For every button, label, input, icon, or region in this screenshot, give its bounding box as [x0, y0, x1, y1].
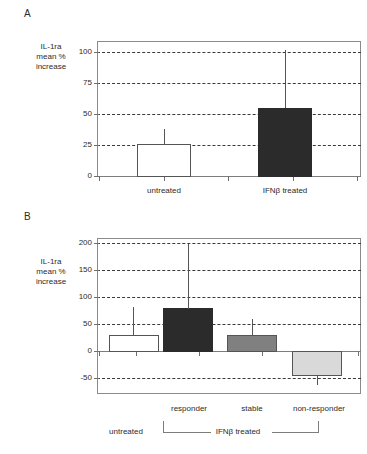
bar-b-stable: [227, 335, 277, 352]
ytick-b-50: [94, 324, 99, 325]
gridline-b-200: [97, 243, 361, 244]
ytick-a-25: [94, 145, 99, 146]
panel-a-letter: A: [24, 8, 31, 19]
gridline-a-100: [97, 52, 361, 53]
ytick-b--50: [94, 378, 99, 379]
ytick-label-a-25: 25: [64, 140, 92, 149]
errorbar-b-responder: [188, 244, 189, 309]
gridline-a-50: [97, 114, 361, 115]
axis-title-b-line-3: increase: [22, 277, 80, 287]
xlabel-a-untreated: untreated: [124, 186, 204, 195]
errorbar-a-ifnb-treated: [285, 50, 286, 108]
ytick-label-a-0: 0: [64, 171, 92, 180]
group-label-ifnb-treated: IFNβ treated: [173, 427, 303, 436]
ytick-a-100: [94, 52, 99, 53]
y-axis-b: [97, 238, 98, 394]
ytick-label-b-200: 200: [62, 238, 92, 247]
ytick-a-50: [94, 114, 99, 115]
xlabel-b-non-responder: non-responder: [276, 404, 362, 413]
ytick-label-a-50: 50: [64, 109, 92, 118]
gridline-b--50: [97, 378, 361, 379]
gridline-b-50: [97, 324, 361, 325]
xtick-b-5: [358, 351, 359, 356]
axis-title-line-3: increase: [22, 62, 80, 72]
group-label-untreated: untreated: [86, 427, 166, 436]
panel-b-letter: B: [24, 211, 31, 222]
ytick-label-a-75: 75: [64, 78, 92, 87]
ytick-label-b-100: 100: [62, 292, 92, 301]
bar-b-responder: [163, 308, 213, 352]
y-axis-a: [97, 41, 98, 177]
chart-panel-a: [97, 41, 361, 177]
gridline-a-75: [97, 83, 361, 84]
ytick-b-150: [94, 270, 99, 271]
bar-a-ifnb-treated: [258, 108, 312, 177]
gridline-b-150: [97, 270, 361, 271]
errorbar-b-stable: [252, 319, 253, 336]
errorbar-b-untreated: [133, 307, 134, 336]
bar-a-untreated: [137, 144, 191, 177]
bar-b-non-responder: [292, 351, 342, 376]
errorbar-b-non-responder: [317, 375, 318, 385]
ytick-a-75: [94, 83, 99, 84]
xtick-a-2: [228, 176, 229, 181]
errorbar-a-untreated: [164, 129, 165, 145]
ytick-b-100: [94, 297, 99, 298]
ytick-b-200: [94, 243, 99, 244]
xlabel-a-ifnb-treated: IFNβ treated: [245, 186, 325, 195]
ytick-label-b-0: 0: [62, 346, 92, 355]
bar-b-untreated: [109, 335, 159, 352]
xtick-b-0: [99, 351, 100, 356]
ytick-label-b-150: 150: [62, 265, 92, 274]
xtick-a-4: [357, 176, 358, 181]
xtick-a-0: [99, 176, 100, 181]
ytick-label-b--50: -50: [62, 373, 92, 382]
ytick-label-a-100: 100: [64, 47, 92, 56]
gridline-b-100: [97, 297, 361, 298]
ytick-label-b-50: 50: [62, 319, 92, 328]
chart-panel-b: [97, 238, 361, 394]
